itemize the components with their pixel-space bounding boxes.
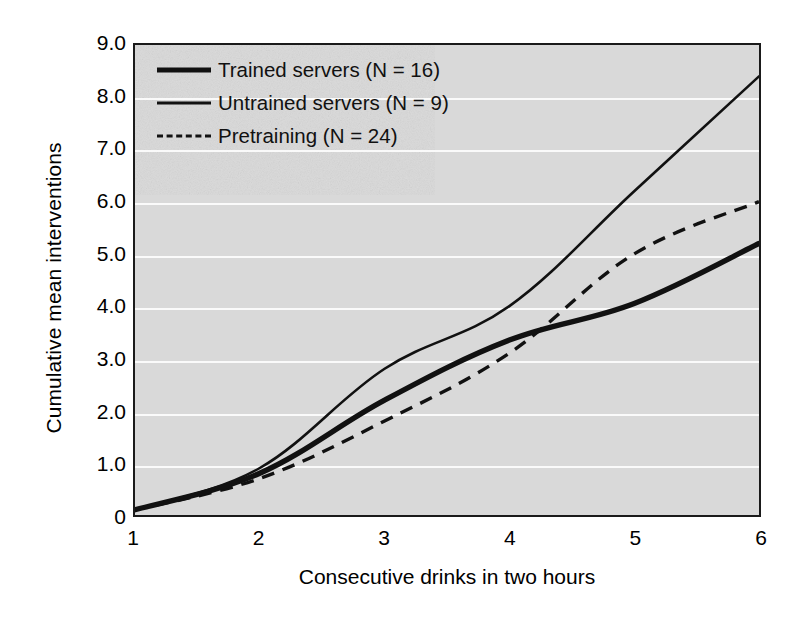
x-tick-label: 4 bbox=[480, 527, 540, 549]
legend: Trained servers (N = 16) Untrained serve… bbox=[151, 51, 455, 156]
legend-item-trained-servers: Trained servers (N = 16) bbox=[157, 53, 449, 86]
legend-item-untrained-servers: Untrained servers (N = 9) bbox=[157, 86, 449, 119]
series-line-trained-servers bbox=[135, 243, 759, 509]
solid-thick-line-icon bbox=[157, 60, 211, 80]
x-tick-label: 5 bbox=[605, 527, 665, 549]
legend-item-label: Pretraining (N = 24) bbox=[218, 125, 397, 147]
line-chart-figure: Cumulative mean interventions 9.0 8.0 7.… bbox=[0, 0, 802, 617]
legend-item-pretraining: Pretraining (N = 24) bbox=[157, 119, 449, 152]
x-axis-title: Consecutive drinks in two hours bbox=[133, 565, 761, 589]
dashed-line-icon bbox=[157, 126, 211, 146]
plot-area: Trained servers (N = 16) Untrained serve… bbox=[133, 43, 761, 517]
legend-item-label: Trained servers (N = 16) bbox=[218, 59, 440, 81]
x-tick-label: 1 bbox=[103, 527, 163, 549]
x-tick-label: 3 bbox=[354, 527, 414, 549]
series-line-pretraining bbox=[135, 202, 759, 510]
legend-item-label: Untrained servers (N = 9) bbox=[218, 92, 449, 114]
x-tick-label: 2 bbox=[229, 527, 289, 549]
x-tick-label: 6 bbox=[731, 527, 791, 549]
solid-thin-line-icon bbox=[157, 93, 211, 113]
